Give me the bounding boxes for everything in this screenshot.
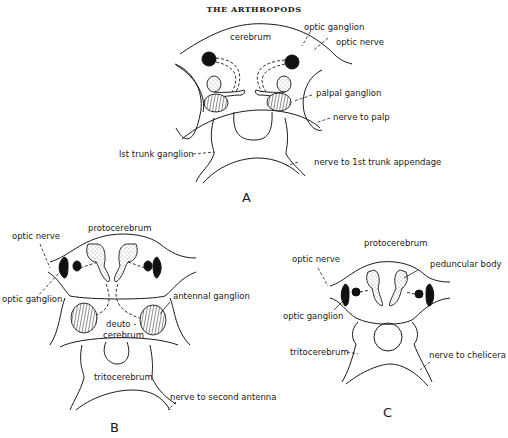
optic-ganglion-left (202, 52, 216, 66)
label-nerve-to-chelicera: nerve to chelicera (429, 350, 506, 360)
label-deutocerebrum-2: cerebrum (103, 330, 144, 340)
palpal-ganglion-right (267, 93, 291, 111)
panel-b: protocerebrum optic nerve optic ganglion… (2, 223, 276, 435)
label-optic-nerve: optic nerve (336, 37, 384, 47)
label-nerve-to-first-trunk-appendage: nerve to 1st trunk appendage (314, 157, 441, 167)
label-deutocerebrum-1: deuto - (106, 319, 136, 329)
label-optic-ganglion: optic ganglion (304, 22, 364, 32)
panel-letter-b: B (110, 420, 119, 435)
label-optic-nerve: optic nerve (12, 231, 60, 241)
panel-c: protocerebrum optic nerve peduncular bod… (283, 238, 506, 420)
panel-letter-a: A (242, 190, 251, 205)
label-antennal-ganglion: antennal ganglion (173, 291, 250, 301)
label-optic-ganglion: optic ganglion (283, 311, 343, 321)
label-palpal-ganglion: palpal ganglion (316, 88, 381, 98)
optic-ganglion-right (285, 55, 299, 69)
label-nerve-to-palp: nerve to palp (333, 112, 390, 122)
label-optic-ganglion: optic ganglion (2, 294, 62, 304)
label-first-trunk-ganglion: lst trunk ganglion (119, 149, 194, 159)
palpal-ganglion-left (204, 94, 228, 112)
arthropod-brain-figure: cerebrum optic ganglion optic nerve palp… (0, 0, 508, 438)
label-cerebrum: cerebrum (230, 32, 271, 42)
label-protocerebrum: protocerebrum (364, 238, 427, 248)
label-tritocerebrum: tritocerebrum (94, 372, 153, 382)
label-optic-nerve: optic nerve (292, 254, 340, 264)
label-peduncular-body: peduncular body (430, 259, 502, 269)
label-protocerebrum: protocerebrum (88, 223, 151, 233)
label-nerve-to-second-antenna: nerve to second antenna (170, 392, 276, 402)
panel-letter-c: C (383, 405, 392, 420)
label-tritocerebrum: tritocerebrum (290, 347, 349, 357)
panel-a: cerebrum optic ganglion optic nerve palp… (119, 22, 441, 205)
